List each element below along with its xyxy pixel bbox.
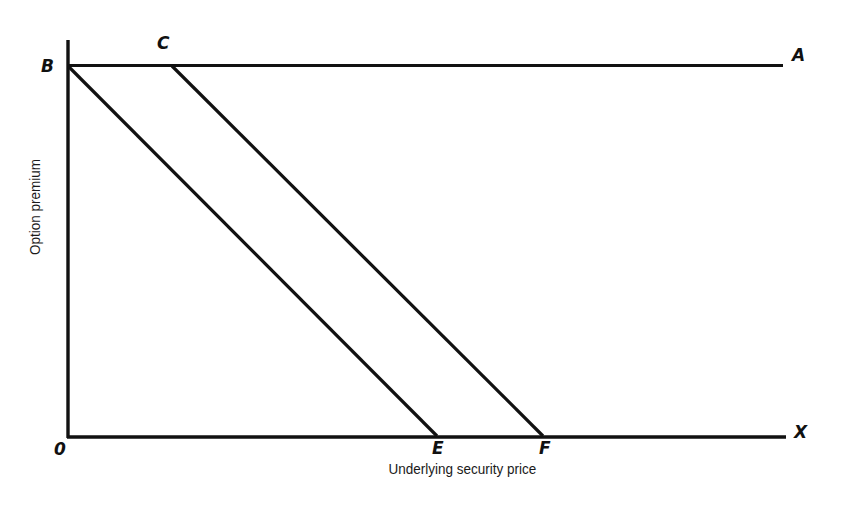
point-label-f: F [539, 440, 551, 457]
point-label-c: C [157, 35, 169, 52]
y-axis-title: Option premium [28, 159, 43, 255]
point-label-x: X [794, 424, 807, 441]
point-label-a: A [792, 47, 805, 64]
line-c-to-f [172, 66, 543, 436]
point-label-e: E [432, 440, 444, 457]
line-b-to-e [68, 66, 437, 436]
point-label-b: B [41, 58, 54, 75]
option-premium-diagram: B C A 0 E F X Underlying security price … [0, 0, 850, 508]
point-label-origin: 0 [54, 441, 66, 458]
x-axis-title: Underlying security price [389, 462, 537, 477]
plot-area [0, 0, 850, 508]
